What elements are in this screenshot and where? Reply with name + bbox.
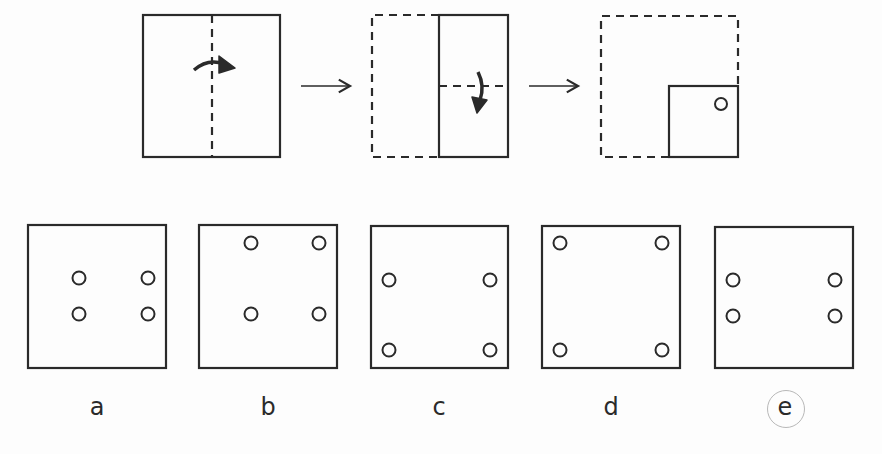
hole-icon	[656, 237, 669, 250]
hole-icon	[142, 308, 155, 321]
hole-icon	[142, 272, 155, 285]
option-c-figure[interactable]	[371, 226, 508, 368]
option-c-label[interactable]: c	[419, 392, 459, 422]
option-e-figure[interactable]	[715, 227, 853, 368]
step-3-panel	[601, 16, 738, 157]
hole-icon	[829, 310, 842, 323]
step-2-panel	[372, 15, 508, 157]
hole-icon	[245, 308, 258, 321]
hole-icon	[313, 308, 326, 321]
step-1-panel	[143, 15, 280, 157]
hole-icon	[727, 310, 740, 323]
option-d-figure[interactable]	[542, 226, 680, 368]
hole-icon	[656, 344, 669, 357]
hole-icon	[383, 274, 396, 287]
option-b-figure[interactable]	[199, 225, 337, 368]
hole-icon	[829, 274, 842, 287]
fold-right-arrow-icon	[194, 56, 235, 73]
option-b-label[interactable]: b	[248, 392, 288, 422]
hole-icon	[383, 344, 396, 357]
fold-down-arrow-icon	[472, 72, 487, 113]
hole-icon	[554, 237, 567, 250]
punched-hole-icon	[715, 98, 727, 110]
hole-icon	[73, 308, 86, 321]
option-d-label[interactable]: d	[591, 392, 631, 422]
hole-icon	[727, 274, 740, 287]
hole-icon	[484, 274, 497, 287]
hole-icon	[554, 344, 567, 357]
hole-icon	[245, 237, 258, 250]
option-a-label[interactable]: a	[77, 392, 117, 422]
option-e-label-selected[interactable]: e	[765, 392, 805, 422]
folded-quarter-square	[669, 86, 738, 157]
hole-icon	[484, 344, 497, 357]
unfolded-outline	[372, 15, 439, 157]
hole-icon	[313, 237, 326, 250]
option-a-figure[interactable]	[28, 225, 166, 368]
puzzle-diagram	[0, 0, 882, 454]
hole-icon	[73, 272, 86, 285]
